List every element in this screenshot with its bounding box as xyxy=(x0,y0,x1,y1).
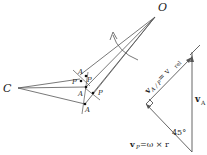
label-c: C xyxy=(3,82,12,95)
label-a-mid: A xyxy=(77,90,83,98)
label-p-left: P xyxy=(71,78,77,86)
label-a-top: A xyxy=(77,68,83,76)
label-vp: v P =ω × r xyxy=(129,139,169,150)
kinematics-diagram: O C A P P A P A v A v A / P = v rel 45° … xyxy=(0,0,207,155)
label-vap: v A / P = v rel xyxy=(142,56,183,97)
svg-text:A: A xyxy=(200,99,206,106)
svg-text:v: v xyxy=(129,139,135,149)
label-angle: 45° xyxy=(172,128,186,137)
label-o: O xyxy=(158,1,167,14)
label-p-right: P xyxy=(97,89,103,97)
label-p-top: P xyxy=(86,76,92,84)
label-va: v A xyxy=(194,94,206,106)
svg-text:=ω × r: =ω × r xyxy=(140,140,169,149)
label-a-bottom: A xyxy=(84,106,90,114)
arrowheads xyxy=(146,55,194,109)
svg-text:v: v xyxy=(194,94,201,104)
